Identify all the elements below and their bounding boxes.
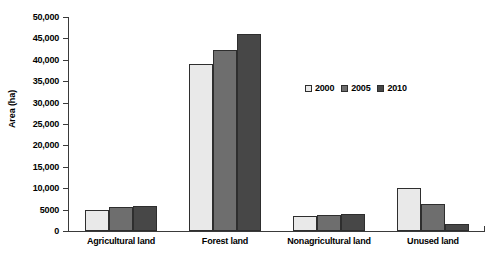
bar[interactable] [237,34,261,231]
y-axis-tick [63,231,69,232]
legend-swatch-icon [305,85,312,92]
x-axis-tick-label: Forest land [202,236,248,246]
y-axis-tick-label: 35,000 [3,76,59,86]
bar-group [293,17,365,231]
x-axis-tick-label: Nonagricultural land [287,236,371,246]
legend-swatch-icon [377,85,384,92]
y-axis-tick-label: 30,000 [3,98,59,108]
legend-label: 2000 [315,83,334,93]
bar[interactable] [109,207,133,231]
y-axis-tick-label: 25,000 [3,119,59,129]
bar[interactable] [133,206,157,231]
bar[interactable] [445,224,469,231]
bar[interactable] [397,188,421,231]
bar-group [189,17,261,231]
legend-swatch-icon [341,85,348,92]
y-axis-tick-label: 10,000 [3,183,59,193]
y-axis-tick-label: 5000 [3,205,59,215]
x-axis-tick-label: Agricultural land [87,236,155,246]
y-axis-tick-label: 45,000 [3,33,59,43]
legend-item[interactable]: 2005 [341,83,370,93]
plot-area [69,17,485,231]
bar[interactable] [189,64,213,231]
x-axis-tick-label: Unused land [407,236,459,246]
bar[interactable] [341,214,365,231]
y-axis-tick-label: 0 [3,226,59,236]
legend-item[interactable]: 2010 [377,83,406,93]
legend-label: 2010 [387,83,406,93]
y-axis-tick-label: 15,000 [3,162,59,172]
chart-legend: 200020052010 [305,83,407,93]
bar[interactable] [317,215,341,231]
bar-group [397,17,469,231]
x-axis-line [68,231,485,232]
legend-label: 2005 [351,83,370,93]
bar[interactable] [85,210,109,231]
y-axis-tick-label: 20,000 [3,140,59,150]
bar[interactable] [293,216,317,231]
legend-item[interactable]: 2000 [305,83,334,93]
bar-group [85,17,157,231]
y-axis-tick-label: 50,000 [3,12,59,22]
bar-chart: Area (ha) 0500010,00015,00020,00025,0003… [0,0,493,259]
y-axis-tick-label: 40,000 [3,55,59,65]
bar[interactable] [213,50,237,231]
bar[interactable] [421,204,445,231]
